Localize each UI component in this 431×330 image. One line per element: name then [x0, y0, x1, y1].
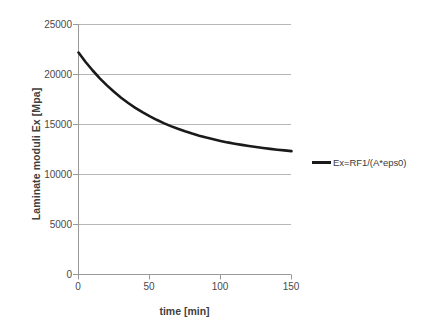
y-axis-ticks: [73, 25, 78, 275]
x-tick-label: 100: [200, 281, 240, 292]
x-tick-150: 150: [271, 281, 311, 295]
x-axis-title: time [min]: [78, 305, 291, 317]
x-tick-50: 50: [129, 281, 169, 295]
x-axis-ticks: [79, 275, 292, 280]
x-tick-label: 150: [271, 281, 311, 292]
y-axis-title: Laminate moduli Ex [Mpa]: [30, 54, 42, 254]
chart-legend: Ex=RF1/(A*eps0): [312, 157, 406, 168]
x-tick-label: 50: [129, 281, 169, 292]
x-tick-0: 0: [58, 281, 98, 295]
gridlines: [78, 25, 291, 225]
legend-entry-label: Ex=RF1/(A*eps0): [333, 157, 406, 168]
series-line-ex: [79, 53, 292, 152]
x-tick-100: 100: [200, 281, 240, 295]
chart-container: 25000 20000 15000 10000 5000 0 0 50 100 …: [0, 0, 431, 330]
legend-line-swatch: [312, 161, 331, 164]
y-tick-label: 25000: [24, 19, 72, 30]
y-tick-label: 0: [24, 269, 72, 280]
x-tick-label: 0: [58, 281, 98, 292]
